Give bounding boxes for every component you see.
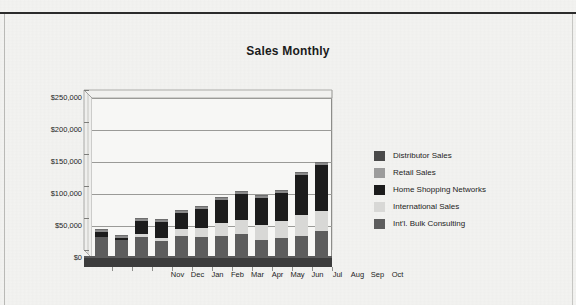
bar-top-face (215, 197, 228, 200)
y-axis-tick (84, 218, 89, 219)
bar-top-face (115, 235, 128, 238)
x-axis-tick (212, 267, 213, 271)
bar-top-face (275, 190, 288, 193)
legend-label: Retail Sales (393, 167, 436, 178)
bar-segment (235, 220, 248, 234)
bar-segment (155, 238, 168, 241)
bar-jan (135, 98, 148, 258)
bar-top-face (255, 195, 268, 198)
bar-jul (255, 98, 268, 258)
x-axis-tick (272, 267, 273, 271)
bar-segment (275, 238, 288, 258)
bar-segment (215, 223, 228, 236)
bar-may (215, 98, 228, 258)
x-axis-tick-label: May (287, 270, 309, 280)
legend-item: Home Shopping Networks (374, 182, 570, 199)
chart-title: Sales Monthly (0, 44, 576, 58)
bar-segment (135, 221, 148, 234)
bar-jun (235, 98, 248, 258)
x-axis-tick (192, 267, 193, 271)
x-axis-tick-label: Mar (247, 270, 269, 280)
bar-top-face (95, 229, 108, 232)
bar-segment (175, 236, 188, 258)
bar-top-face (155, 219, 168, 222)
scanned-page: Sales Monthly $0$50,000$100,000$150,000$… (0, 0, 576, 305)
bar-mar (175, 98, 188, 258)
x-axis-tick-label: Jan (207, 270, 229, 280)
bar-segment (195, 237, 208, 258)
y-axis-tick-label: $100,000 (2, 190, 82, 198)
bar-segment (135, 237, 148, 258)
bar-segment (295, 215, 308, 235)
y-axis: $0$50,000$100,000$150,000$200,000$250,00… (0, 0, 82, 305)
x-axis-tick-label: Nov (167, 270, 189, 280)
bar-segment (295, 175, 308, 215)
legend-label: Home Shopping Networks (393, 184, 486, 195)
x-axis-tick-label: Oct (387, 270, 409, 280)
bar-sep (295, 98, 308, 258)
bar-segment (255, 198, 268, 226)
bar-segment (255, 225, 268, 240)
y-axis-tick-label: $200,000 (2, 126, 82, 134)
x-axis-tick (152, 267, 153, 271)
legend-swatch-icon (374, 219, 385, 229)
bar-top-face (175, 210, 188, 213)
x-axis-tick-label: Feb (227, 270, 249, 280)
x-axis-tick (312, 267, 313, 271)
legend-label: Int'l. Bulk Consulting (393, 218, 465, 229)
x-axis-tick-label: Sep (367, 270, 389, 280)
y-axis-tick (84, 90, 89, 91)
page-top-rule (0, 12, 576, 14)
y-axis-tick-label: $250,000 (2, 94, 82, 102)
legend-item: International Sales (374, 199, 570, 216)
bar-top-face (135, 218, 148, 221)
bar-segment (155, 241, 168, 258)
x-axis-tick (172, 267, 173, 271)
bar-segment (115, 238, 128, 241)
x-axis-tick (232, 267, 233, 271)
bar-segment (115, 240, 128, 258)
chart-legend: Distributor SalesRetail SalesHome Shoppi… (374, 148, 570, 233)
bar-dec (115, 98, 128, 258)
bar-segment (215, 200, 228, 222)
x-axis-tick-label: Jun (307, 270, 329, 280)
x-axis-labels: NovDecJanFebMarAprMayJunJulAugSepOct (84, 270, 334, 284)
legend-item: Int'l. Bulk Consulting (374, 216, 570, 233)
bar-segment (175, 229, 188, 235)
bar-aug (275, 98, 288, 258)
x-axis-tick (252, 267, 253, 271)
bar-segment (95, 232, 108, 237)
bar-segment (175, 213, 188, 229)
bar-segment (195, 228, 208, 237)
bar-top-face (235, 191, 248, 194)
legend-swatch-icon (374, 168, 385, 178)
y-axis-tick (84, 154, 89, 155)
bar-segment (275, 193, 288, 221)
bar-top-face (195, 206, 208, 209)
bar-segment (315, 231, 328, 258)
bar-segment (215, 236, 228, 258)
plot-floor (84, 258, 332, 267)
bar-nov (95, 98, 108, 258)
legend-label: Distributor Sales (393, 150, 452, 161)
x-axis-tick (132, 267, 133, 271)
bar-segment (275, 221, 288, 238)
bar-segment (155, 222, 168, 239)
y-axis-tick (84, 122, 89, 123)
legend-item: Distributor Sales (374, 148, 570, 165)
bar-segment (295, 236, 308, 258)
y-axis-tick-label: $150,000 (2, 158, 82, 166)
x-axis-tick (332, 267, 333, 271)
x-axis-tick-label: Dec (187, 270, 209, 280)
legend-label: International Sales (393, 201, 459, 212)
bar-oct (315, 98, 328, 258)
legend-item: Retail Sales (374, 165, 570, 182)
bar-segment (235, 234, 248, 258)
x-axis-tick-label: Aug (347, 270, 369, 280)
bar-segment (95, 237, 108, 258)
legend-swatch-icon (374, 185, 385, 195)
x-axis-tick-label: Apr (267, 270, 289, 280)
y-axis-tick (84, 250, 89, 251)
bar-segment (315, 211, 328, 231)
bar-segment (315, 165, 328, 211)
